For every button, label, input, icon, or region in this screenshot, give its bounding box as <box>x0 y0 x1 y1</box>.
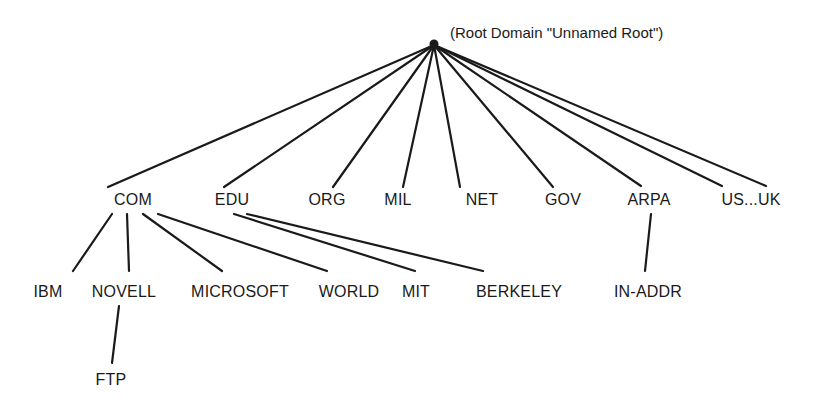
domain-node-ftp: FTP <box>96 371 127 389</box>
domain-node-org: ORG <box>308 191 345 209</box>
domain-node-world: WORLD <box>319 283 380 301</box>
tree-edge <box>434 45 460 187</box>
root-domain-caption: (Root Domain "Unnamed Root") <box>450 24 663 42</box>
tree-edge <box>73 214 112 271</box>
domain-node-edu: EDU <box>215 191 249 209</box>
tree-edge <box>434 45 641 186</box>
domain-node-mit: MIT <box>402 283 430 301</box>
domain-node-com: COM <box>114 191 152 209</box>
tree-edge <box>247 214 483 271</box>
tree-edge <box>108 45 434 187</box>
tree-edge <box>234 214 415 271</box>
domain-node-berkeley: BERKELEY <box>476 283 562 301</box>
domain-node-net: NET <box>466 191 499 209</box>
domain-node-mil: MIL <box>384 191 411 209</box>
domain-node-arpa: ARPA <box>627 191 670 209</box>
tree-edge <box>434 45 766 186</box>
tree-edge <box>434 45 553 187</box>
tree-edge <box>112 306 119 363</box>
tree-edge <box>645 214 651 271</box>
domain-node-gov: GOV <box>545 191 581 209</box>
tree-edge <box>434 45 722 186</box>
tree-edge <box>224 45 434 187</box>
domain-node-inaddr: IN-ADDR <box>614 283 682 301</box>
domain-node-novell: NOVELL <box>92 283 156 301</box>
domain-node-microsoft: MICROSOFT <box>191 283 289 301</box>
domain-node-usuk: US...UK <box>721 191 780 209</box>
domain-node-ibm: IBM <box>33 283 62 301</box>
tree-edge <box>127 214 129 271</box>
dns-hierarchy-diagram: (Root Domain "Unnamed Root") COMEDUORGMI… <box>0 0 820 403</box>
